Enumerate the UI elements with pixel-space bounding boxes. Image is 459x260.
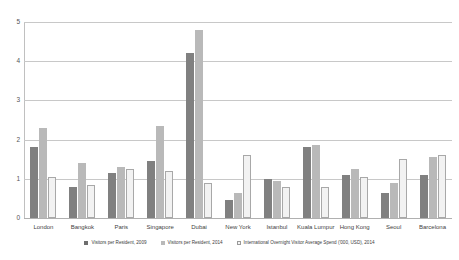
bar: [48, 177, 56, 218]
plot-area: [24, 22, 452, 218]
x-tick-label: Kuala Lumpur: [296, 224, 335, 236]
bar: [156, 126, 164, 218]
bar: [195, 30, 203, 218]
bar: [117, 167, 125, 218]
bar: [69, 187, 77, 218]
bar: [165, 171, 173, 218]
y-tick-label: 1: [16, 176, 20, 183]
bar: [243, 155, 251, 218]
y-tick-label: 5: [16, 19, 20, 26]
bar: [264, 179, 272, 218]
bar: [39, 128, 47, 218]
bar: [342, 175, 350, 218]
bar: [108, 173, 116, 218]
bar-group: [374, 22, 413, 218]
bar: [78, 163, 86, 218]
x-tick-label: Dubai: [180, 224, 219, 236]
x-tick-label: Seoul: [374, 224, 413, 236]
legend-label: International Overnight Visitor Average …: [244, 241, 375, 246]
bar-group: [257, 22, 296, 218]
bar: [225, 200, 233, 218]
x-tick-label: Singapore: [141, 224, 180, 236]
bar: [126, 169, 134, 218]
bar: [30, 147, 38, 218]
bar-groups: [24, 22, 452, 218]
x-tick-label: London: [24, 224, 63, 236]
bar: [147, 161, 155, 218]
bar: [321, 187, 329, 218]
bar: [204, 183, 212, 218]
bar-group: [219, 22, 258, 218]
x-axis-category-labels: LondonBangkokParisSingaporeDubaiNew York…: [24, 224, 452, 236]
bar: [273, 181, 281, 218]
bar: [360, 177, 368, 218]
legend-label: Visitors per Resident, 2014: [168, 241, 223, 246]
y-tick-label: 4: [16, 58, 20, 65]
bar: [303, 147, 311, 218]
bar-group: [413, 22, 452, 218]
bar-chart: 012345 LondonBangkokParisSingaporeDubaiN…: [0, 0, 459, 260]
legend-label: Visitors per Resident, 2009: [91, 241, 146, 246]
y-tick-label: 3: [16, 97, 20, 104]
bar-group: [141, 22, 180, 218]
y-axis-tick-labels: 012345: [6, 0, 22, 260]
bar-group: [180, 22, 219, 218]
bar: [399, 159, 407, 218]
bar: [381, 193, 389, 218]
legend-item[interactable]: Visitors per Resident, 2009: [84, 241, 146, 246]
x-tick-label: Barcelona: [413, 224, 452, 236]
bar: [312, 145, 320, 218]
bar: [438, 155, 446, 218]
bar: [390, 183, 398, 218]
chart-legend: Visitors per Resident, 2009Visitors per …: [0, 241, 459, 246]
y-tick-label: 2: [16, 136, 20, 143]
x-tick-label: Bangkok: [63, 224, 102, 236]
bar: [234, 193, 242, 218]
bar-group: [296, 22, 335, 218]
x-tick-label: New York: [219, 224, 258, 236]
legend-swatch-icon: [237, 241, 241, 245]
axis-baseline: [24, 218, 452, 219]
bar: [87, 185, 95, 218]
bar: [429, 157, 437, 218]
bar-group: [102, 22, 141, 218]
bar-group: [63, 22, 102, 218]
bar: [351, 169, 359, 218]
bar: [282, 187, 290, 218]
legend-item[interactable]: Visitors per Resident, 2014: [161, 241, 223, 246]
legend-swatch-icon: [161, 241, 165, 245]
y-tick-label: 0: [16, 215, 20, 222]
legend-swatch-icon: [84, 241, 88, 245]
bar-group: [24, 22, 63, 218]
bar: [186, 53, 194, 218]
x-tick-label: Hong Kong: [335, 224, 374, 236]
legend-item[interactable]: International Overnight Visitor Average …: [237, 241, 375, 246]
bar: [420, 175, 428, 218]
x-tick-label: Paris: [102, 224, 141, 236]
bar-group: [335, 22, 374, 218]
x-tick-label: Istanbul: [257, 224, 296, 236]
